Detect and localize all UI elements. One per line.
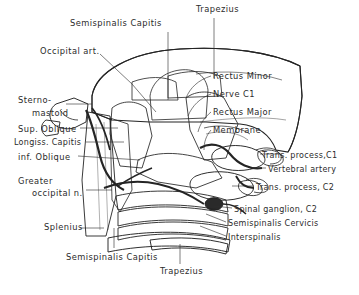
semispinalis-capitis-lower xyxy=(108,232,230,252)
splenius-capitis xyxy=(82,112,116,236)
label-splenius: Splenius xyxy=(44,222,83,232)
leader-inf-oblique xyxy=(78,156,140,160)
label-trans-process-c2: Trans. process, C2 xyxy=(256,183,334,193)
label-semispinalis-cervicis: Semispinalis Cervicis xyxy=(228,219,318,229)
anatomical-plate: Trapezius Semispinalis Capitis Occipital… xyxy=(0,0,359,295)
label-interspinalis: Interspinalis xyxy=(228,233,281,243)
label-sup-oblique: Sup. Oblique xyxy=(18,124,77,134)
greater-occipital-nerve xyxy=(104,168,204,204)
label-trapezius-top: Trapezius xyxy=(196,4,239,14)
label-membrane: Membrane xyxy=(213,125,261,135)
label-semispinalis-capitis-bot: Semispinalis Capitis xyxy=(66,252,158,262)
label-occipital-n: occipital n. xyxy=(32,188,83,198)
label-mastoid: mastoid xyxy=(32,108,69,118)
label-occipital-art: Occipital art. xyxy=(40,46,100,56)
label-rectus-major: Rectus Major xyxy=(213,107,272,117)
interspinalis xyxy=(118,222,228,240)
obliquus-superior xyxy=(110,102,152,168)
semispinalis-capitis-insertion xyxy=(132,78,178,101)
label-semispinalis-capitis-top: Semispinalis Capitis xyxy=(70,18,162,28)
leader-occipital-art xyxy=(100,54,132,84)
label-inf-oblique: inf. Oblique xyxy=(18,152,71,162)
vertebral-artery-vessel xyxy=(200,145,262,188)
label-trans-process-c1: Trans. process,C1 xyxy=(262,151,337,161)
label-spinal-ganglion: Spinal ganglion, C2 xyxy=(234,205,317,215)
label-sterno: Sterno- xyxy=(18,95,52,105)
occiput-outline xyxy=(92,48,302,152)
label-vertebral-artery: Vertebral artery xyxy=(268,165,336,175)
label-trapezius-bot: Trapezius xyxy=(160,266,203,276)
label-greater: Greater xyxy=(18,176,53,186)
label-longiss-capitis: Longiss. Capitis xyxy=(14,138,81,148)
label-rectus-minor: Rectus Minor xyxy=(213,71,272,81)
leader-semispinalis-cerv xyxy=(206,214,226,222)
label-nerve-c1: Nerve C1 xyxy=(213,89,255,99)
semispinalis-cervicis xyxy=(116,191,228,226)
